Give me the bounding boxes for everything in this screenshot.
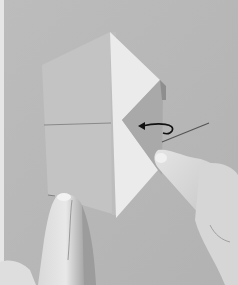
photo-scene	[0, 0, 238, 285]
origami-photo: Origami folding step photo with curved a…	[0, 0, 238, 285]
left-border	[0, 0, 4, 285]
